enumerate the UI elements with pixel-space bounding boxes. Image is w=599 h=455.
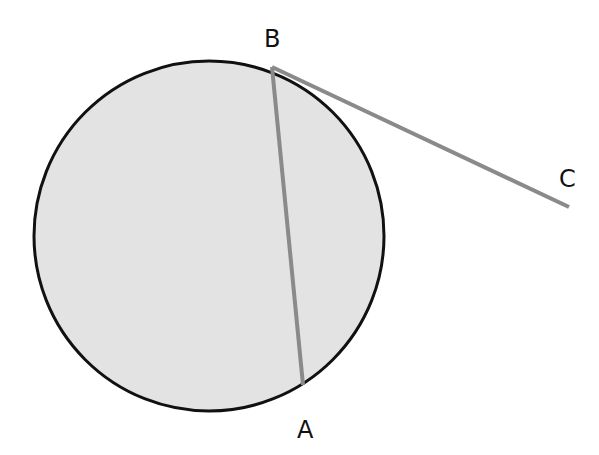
diagram-canvas: B A C — [0, 0, 599, 455]
circle — [34, 61, 384, 411]
label-a: A — [297, 416, 314, 444]
label-c: C — [559, 165, 576, 193]
label-b: B — [264, 25, 280, 53]
